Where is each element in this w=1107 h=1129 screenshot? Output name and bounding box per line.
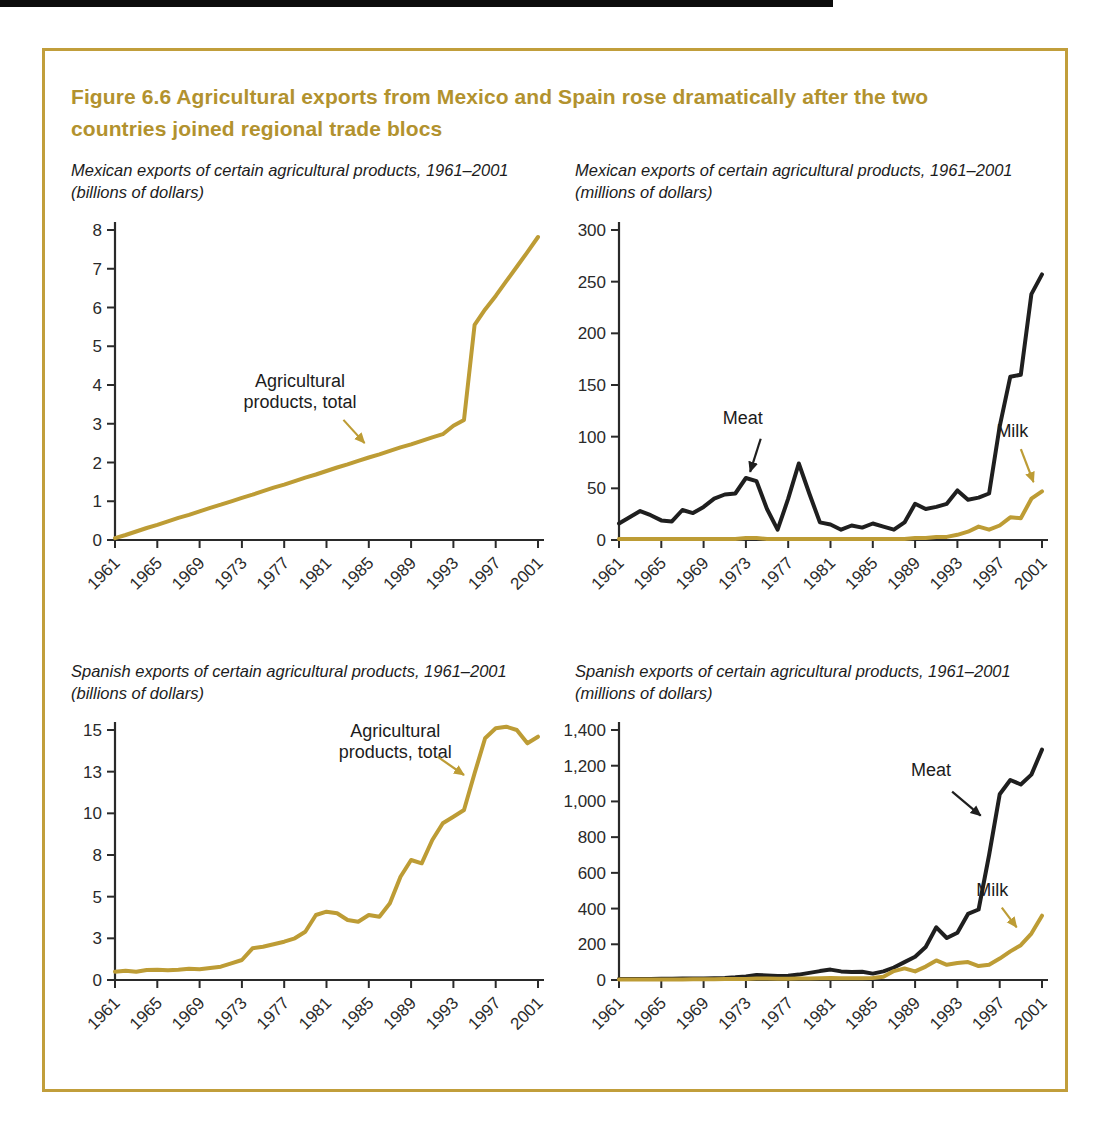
svg-text:1977: 1977 [757, 553, 797, 593]
svg-text:13: 13 [83, 763, 102, 782]
svg-text:15: 15 [83, 721, 102, 740]
svg-text:1969: 1969 [672, 993, 712, 1033]
svg-text:10: 10 [83, 804, 102, 823]
svg-text:Meat: Meat [911, 760, 951, 780]
svg-text:250: 250 [578, 272, 606, 291]
chart-svg-mexico-total: 0123456781961196519691973197719811985198… [57, 208, 552, 620]
svg-text:1969: 1969 [672, 553, 712, 593]
svg-text:1989: 1989 [380, 993, 420, 1033]
svg-text:5: 5 [93, 337, 102, 356]
svg-text:1993: 1993 [422, 553, 462, 593]
chart-subtitle-line2: (millions of dollars) [575, 682, 1065, 704]
chart-panel-mexico-total: Mexican exports of certain agricultural … [57, 159, 561, 620]
svg-text:200: 200 [578, 935, 606, 954]
svg-text:0: 0 [597, 971, 606, 990]
chart-panel-spain-products: Spanish exports of certain agricultural … [561, 660, 1065, 1061]
chart-subtitle-line1: Mexican exports of certain agricultural … [575, 159, 1065, 181]
svg-text:Meat: Meat [723, 408, 763, 428]
svg-text:Milk: Milk [996, 420, 1029, 440]
svg-text:1989: 1989 [380, 553, 420, 593]
svg-text:1985: 1985 [841, 553, 881, 593]
svg-text:1961: 1961 [84, 993, 124, 1033]
svg-text:5: 5 [93, 888, 102, 907]
chart-subtitle: Spanish exports of certain agricultural … [575, 660, 1065, 705]
svg-text:2001: 2001 [507, 553, 547, 593]
svg-text:1997: 1997 [464, 553, 504, 593]
svg-text:8: 8 [93, 221, 102, 240]
svg-text:1989: 1989 [884, 553, 924, 593]
svg-text:Agricultural: Agricultural [255, 370, 345, 390]
svg-text:Milk: Milk [976, 880, 1009, 900]
scan-artifact-bar [0, 0, 833, 7]
svg-text:100: 100 [578, 427, 606, 446]
svg-text:2001: 2001 [1011, 553, 1051, 593]
svg-text:3: 3 [93, 414, 102, 433]
svg-text:1969: 1969 [168, 993, 208, 1033]
svg-text:8: 8 [93, 846, 102, 865]
chart-svg-spain-products: 02004006008001,0001,2001,400196119651969… [561, 708, 1056, 1060]
chart-subtitle: Mexican exports of certain agricultural … [71, 159, 561, 204]
chart-subtitle: Spanish exports of certain agricultural … [71, 660, 561, 705]
svg-text:products, total: products, total [339, 742, 452, 762]
svg-text:0: 0 [93, 531, 102, 550]
svg-text:1973: 1973 [715, 993, 755, 1033]
chart-subtitle-line1: Spanish exports of certain agricultural … [71, 660, 561, 682]
svg-text:Agricultural: Agricultural [350, 721, 440, 741]
svg-text:1965: 1965 [630, 553, 670, 593]
svg-text:1969: 1969 [168, 553, 208, 593]
charts-grid: Mexican exports of certain agricultural … [57, 159, 1065, 1060]
svg-text:1977: 1977 [757, 993, 797, 1033]
svg-text:1961: 1961 [84, 553, 124, 593]
chart-subtitle-line2: (billions of dollars) [71, 181, 561, 203]
svg-text:1985: 1985 [337, 553, 377, 593]
svg-text:1973: 1973 [715, 553, 755, 593]
chart-subtitle-line2: (billions of dollars) [71, 682, 561, 704]
svg-text:1977: 1977 [253, 993, 293, 1033]
chart-subtitle-line1: Spanish exports of certain agricultural … [575, 660, 1065, 682]
svg-text:50: 50 [587, 479, 606, 498]
svg-text:1981: 1981 [799, 993, 839, 1033]
svg-text:200: 200 [578, 324, 606, 343]
svg-text:1997: 1997 [464, 993, 504, 1033]
svg-text:products, total: products, total [244, 391, 357, 411]
svg-text:1997: 1997 [968, 553, 1008, 593]
svg-text:0: 0 [93, 971, 102, 990]
svg-text:1965: 1965 [126, 553, 166, 593]
svg-text:6: 6 [93, 298, 102, 317]
svg-text:1993: 1993 [926, 553, 966, 593]
figure-title: Figure 6.6 Agricultural exports from Mex… [71, 81, 976, 144]
svg-text:600: 600 [578, 864, 606, 883]
svg-text:1981: 1981 [295, 993, 335, 1033]
svg-text:1,400: 1,400 [563, 721, 606, 740]
chart-svg-spain-total: 0358101315196119651969197319771981198519… [57, 708, 552, 1060]
chart-subtitle-line2: (millions of dollars) [575, 181, 1065, 203]
svg-text:1961: 1961 [588, 553, 628, 593]
chart-svg-mexico-products: 0501001502002503001961196519691973197719… [561, 208, 1056, 620]
svg-text:800: 800 [578, 828, 606, 847]
svg-text:2: 2 [93, 453, 102, 472]
svg-text:1985: 1985 [841, 993, 881, 1033]
svg-text:1993: 1993 [926, 993, 966, 1033]
svg-text:150: 150 [578, 376, 606, 395]
chart-subtitle: Mexican exports of certain agricultural … [575, 159, 1065, 204]
svg-text:1: 1 [93, 492, 102, 511]
svg-text:1,200: 1,200 [563, 757, 606, 776]
figure-border-box: Figure 6.6 Agricultural exports from Mex… [42, 48, 1068, 1092]
svg-text:1981: 1981 [799, 553, 839, 593]
svg-text:4: 4 [93, 376, 102, 395]
svg-text:1997: 1997 [968, 993, 1008, 1033]
svg-text:300: 300 [578, 221, 606, 240]
svg-text:1973: 1973 [211, 553, 251, 593]
svg-text:7: 7 [93, 259, 102, 278]
svg-text:0: 0 [597, 531, 606, 550]
svg-text:1977: 1977 [253, 553, 293, 593]
svg-text:2001: 2001 [507, 993, 547, 1033]
svg-text:1965: 1965 [126, 993, 166, 1033]
svg-text:400: 400 [578, 900, 606, 919]
svg-text:1981: 1981 [295, 553, 335, 593]
chart-panel-spain-total: Spanish exports of certain agricultural … [57, 660, 561, 1061]
svg-text:1961: 1961 [588, 993, 628, 1033]
svg-text:1,000: 1,000 [563, 792, 606, 811]
chart-panel-mexico-products: Mexican exports of certain agricultural … [561, 159, 1065, 620]
svg-text:2001: 2001 [1011, 993, 1051, 1033]
